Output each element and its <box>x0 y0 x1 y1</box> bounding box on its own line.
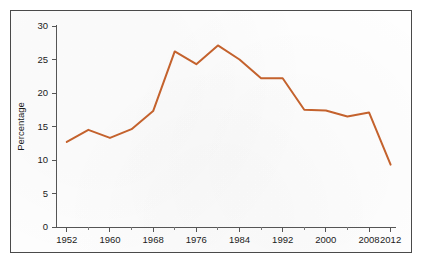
x-tick-label: 2012 <box>380 234 401 245</box>
x-tick-label: 1992 <box>272 234 293 245</box>
data-line-percentage <box>67 45 391 164</box>
x-tick-label: 1960 <box>99 234 120 245</box>
y-axis-title: Percentage <box>15 102 26 151</box>
y-tick-label: 25 <box>37 54 48 65</box>
y-tick-label: 0 <box>43 221 48 232</box>
x-tick-label: 2000 <box>315 234 336 245</box>
y-tick-label: 10 <box>37 154 48 165</box>
data-series-group <box>67 45 391 164</box>
x-tick-label: 1952 <box>56 234 77 245</box>
line-chart-plot: 051015202530 195219601968197619841992200… <box>0 0 422 269</box>
x-axis: 195219601968197619841992200020082012 <box>56 227 401 245</box>
x-tick-label: 1984 <box>229 234 250 245</box>
y-tick-label: 30 <box>37 20 48 31</box>
chart-figure: 051015202530 195219601968197619841992200… <box>0 0 422 269</box>
x-tick-label: 1976 <box>186 234 207 245</box>
y-tick-label: 20 <box>37 87 48 98</box>
y-tick-label: 5 <box>43 188 48 199</box>
x-tick-label: 2008 <box>358 234 379 245</box>
x-tick-label: 1968 <box>143 234 164 245</box>
y-tick-label: 15 <box>37 121 48 132</box>
y-axis: 051015202530 <box>37 20 56 232</box>
